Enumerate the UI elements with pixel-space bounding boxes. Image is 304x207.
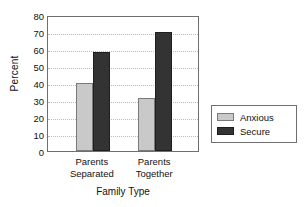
x-tick-label: ParentsTogether bbox=[115, 156, 193, 179]
y-tick-label: 50 bbox=[33, 63, 44, 73]
legend-item-anxious[interactable]: Anxious bbox=[217, 110, 291, 124]
y-axis-title: Percent bbox=[9, 39, 20, 109]
legend: AnxiousSecure bbox=[211, 105, 297, 143]
legend-label: Secure bbox=[240, 126, 270, 137]
bar-group bbox=[48, 17, 200, 151]
bar-secure-parents-together bbox=[155, 32, 172, 151]
x-axis-tick-labels: ParentsSeparatedParentsTogether bbox=[47, 156, 199, 184]
y-tick-label: 40 bbox=[33, 80, 44, 90]
y-tick-label: 30 bbox=[33, 97, 44, 107]
y-tick-label: 0 bbox=[39, 148, 44, 158]
y-tick-label: 70 bbox=[33, 29, 44, 39]
bar-anxious-parents-together bbox=[138, 98, 155, 151]
plot-area bbox=[47, 16, 199, 152]
legend-swatch-icon bbox=[217, 127, 234, 135]
y-tick-label: 10 bbox=[33, 131, 44, 141]
y-tick-label: 20 bbox=[33, 114, 44, 124]
x-axis-title: Family Type bbox=[47, 186, 199, 197]
bar-chart: Percent 80706050403020100 ParentsSeparat… bbox=[0, 0, 304, 207]
x-tick-label-line: Parents bbox=[115, 156, 193, 168]
legend-item-secure[interactable]: Secure bbox=[217, 124, 291, 138]
y-axis-tick-labels: 80706050403020100 bbox=[22, 12, 44, 152]
x-tick-label-line: Together bbox=[115, 168, 193, 180]
legend-swatch-icon bbox=[217, 113, 234, 121]
y-tick-label: 60 bbox=[33, 46, 44, 56]
legend-label: Anxious bbox=[240, 112, 274, 123]
y-tick-label: 80 bbox=[33, 12, 44, 22]
bar-groups bbox=[48, 17, 198, 151]
